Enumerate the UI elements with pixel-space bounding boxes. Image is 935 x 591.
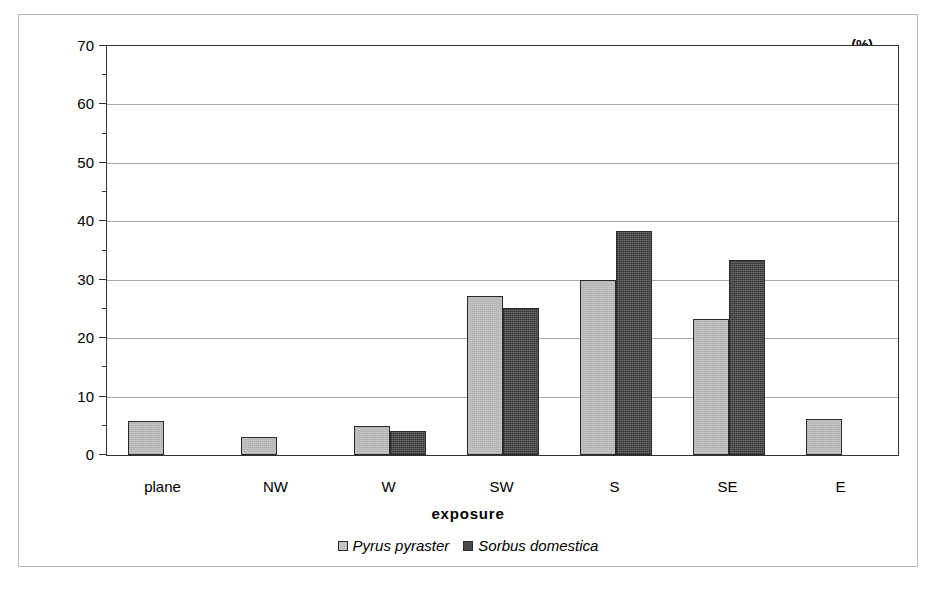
legend-label: Pyrus pyraster [353,538,450,553]
bar-w-pyrus-pyraster [354,426,390,455]
bar-group-plane [107,46,220,455]
y-axis: 010203040506070 [19,45,106,456]
chart-legend: Pyrus pyrasterSorbus domestica [19,538,917,553]
y-tick-60 [99,103,106,104]
x-tick-label-nw: NW [263,479,288,494]
x-tick-label-sw: SW [489,479,513,494]
y-tick-label-50: 50 [77,154,94,169]
bar-se-pyrus-pyraster [693,319,729,455]
y-tick-label-70: 70 [77,38,94,53]
x-tick-label-se: SE [717,479,737,494]
bar-se-sorbus-domestica [729,260,765,455]
y-tick-0 [99,454,106,455]
bar-sw-sorbus-domestica [503,308,539,455]
x-axis-title: exposure [19,505,917,522]
y-tick-label-40: 40 [77,213,94,228]
bar-group-se [672,46,785,455]
bar-group-e [785,46,898,455]
x-tick-label-plane: plane [144,479,181,494]
bar-sw-pyrus-pyraster [467,296,503,455]
legend-label: Sorbus domestica [478,538,598,553]
y-tick-label-20: 20 [77,330,94,345]
y-tick-label-30: 30 [77,271,94,286]
bar-s-pyrus-pyraster [580,280,616,455]
y-tick-label-0: 0 [86,447,94,462]
x-tick-label-e: E [835,479,845,494]
y-tick-label-10: 10 [77,388,94,403]
bar-group-s [559,46,672,455]
bar-plane-pyrus-pyraster [128,421,164,455]
y-tick-label-60: 60 [77,96,94,111]
bar-s-sorbus-domestica [616,231,652,455]
y-tick-30 [99,279,106,280]
x-tick-label-w: W [381,479,395,494]
y-tick-70 [99,45,106,46]
plot-area [106,45,899,456]
legend-swatch-icon [338,541,348,551]
bar-group-nw [220,46,333,455]
legend-entry-pyrus-pyraster: Pyrus pyraster [338,538,450,553]
bar-e-pyrus-pyraster [806,419,842,455]
legend-swatch-icon [463,541,473,551]
y-tick-50 [99,162,106,163]
bar-nw-pyrus-pyraster [241,437,277,455]
figure-frame: (%) 010203040506070 planeNWWSWSSEE expos… [18,14,918,567]
bar-group-w [333,46,446,455]
x-tick-label-s: S [609,479,619,494]
x-axis-labels: planeNWWSWSSEE [106,467,899,497]
y-tick-10 [99,396,106,397]
bar-w-sorbus-domestica [390,431,426,455]
legend-entry-sorbus-domestica: Sorbus domestica [463,538,598,553]
bar-group-sw [446,46,559,455]
y-tick-20 [99,337,106,338]
y-tick-40 [99,220,106,221]
